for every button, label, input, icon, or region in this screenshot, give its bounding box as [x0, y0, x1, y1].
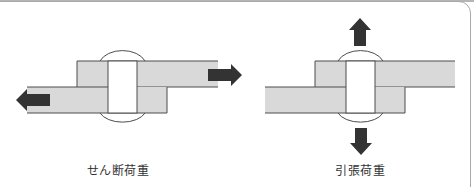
shear-load-figure [16, 51, 242, 123]
arrow-down-icon [350, 128, 372, 155]
shear-load-label: せん断荷重 [87, 161, 150, 178]
rivet-load-diagram [0, 0, 474, 187]
rivet-head-top [100, 51, 145, 61]
rivet-shank [346, 61, 375, 113]
rivet-head-top [338, 51, 383, 61]
upper-plate [315, 61, 455, 87]
lower-plate [265, 87, 405, 113]
tension-load-figure [265, 18, 455, 155]
arrow-up-icon [349, 18, 371, 46]
upper-plate [77, 61, 218, 87]
rivet-head-bottom [338, 113, 383, 122]
rivet-head-bottom [100, 113, 145, 122]
rivet-shank [108, 61, 137, 113]
tension-load-label: 引張荷重 [335, 161, 385, 178]
